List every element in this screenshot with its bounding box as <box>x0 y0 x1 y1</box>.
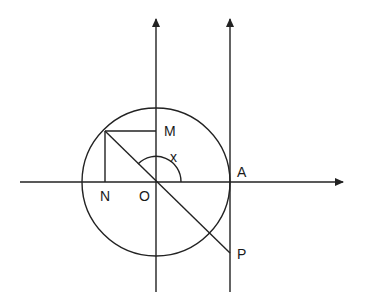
label-p: P <box>237 246 246 262</box>
label-o: O <box>139 188 150 204</box>
secant-line <box>105 131 230 253</box>
label-a: A <box>237 164 247 180</box>
label-n: N <box>100 188 110 204</box>
label-m: M <box>164 123 176 139</box>
label-x: x <box>170 149 177 165</box>
trig-diagram: M N O A P x <box>0 0 366 306</box>
